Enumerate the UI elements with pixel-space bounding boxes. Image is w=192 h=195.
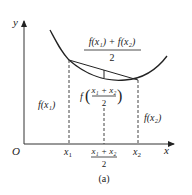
f-mid-prefix: f [80,91,84,102]
f-mid-numerator: x₁ + x₂ [91,85,117,95]
origin-label: O [12,145,20,157]
x2-label: x2 [132,146,141,159]
figure-caption: (a) [98,173,109,185]
x1-label: x1 [63,146,72,159]
chord-mid-numerator: f(x₁) + f(x₂) [89,36,136,48]
y-axis-label: y [12,16,18,28]
x-axis-label: x [163,144,169,156]
f-mid-left-paren: ( [85,87,90,105]
f-x1-label: f(x₁) [38,99,56,111]
mid-x-numerator: x₁ + x₂ [91,146,117,156]
mid-x-denominator: 2 [102,159,107,169]
jensen-diagram: y x O x1 x2 x₁ + x₂ 2 f(x₁) f(x₂) f(x₁) … [0,0,192,195]
chord-mid-denominator: 2 [110,52,115,63]
f-x2-label: f(x₂) [144,112,162,124]
f-mid-denominator: 2 [102,98,107,108]
f-mid-right-paren: ) [117,87,122,105]
